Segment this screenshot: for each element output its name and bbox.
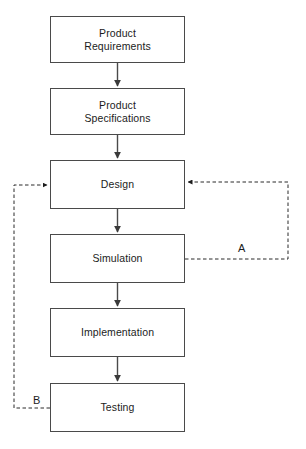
edge-testing-to-design-loop-b xyxy=(14,185,50,408)
loop-label-a: A xyxy=(236,242,247,254)
node-product-specifications[interactable]: Product Specifications xyxy=(50,88,185,135)
flowchart-diagram: Product Requirements Product Specificati… xyxy=(0,0,306,449)
loop-label-b: B xyxy=(31,394,42,406)
node-implementation[interactable]: Implementation xyxy=(50,308,185,357)
node-design[interactable]: Design xyxy=(50,160,185,209)
node-testing[interactable]: Testing xyxy=(50,383,185,432)
connector-layer xyxy=(0,0,306,449)
node-simulation[interactable]: Simulation xyxy=(50,234,185,283)
node-product-requirements[interactable]: Product Requirements xyxy=(50,16,185,63)
